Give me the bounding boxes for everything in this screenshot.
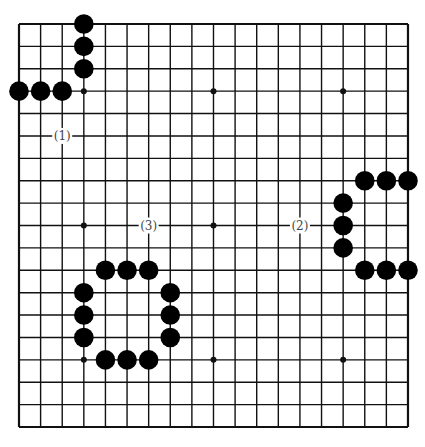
black-stone (74, 59, 94, 79)
black-stone (160, 305, 180, 325)
black-stone (74, 37, 94, 57)
group-label: (1) (54, 129, 71, 143)
black-stone (160, 328, 180, 348)
black-stone (355, 260, 375, 280)
black-stone (52, 81, 72, 101)
star-point (81, 88, 87, 94)
black-stone (117, 350, 137, 370)
black-stone (74, 14, 94, 34)
black-stone (117, 260, 137, 280)
black-stone (9, 81, 29, 101)
black-stone (355, 171, 375, 191)
black-stone (74, 283, 94, 303)
black-stone (31, 81, 51, 101)
black-stone (74, 328, 94, 348)
black-stone (96, 350, 116, 370)
star-point (81, 357, 87, 363)
star-point (81, 223, 87, 229)
group-label: (3) (140, 219, 157, 233)
black-stone (139, 260, 159, 280)
black-stone (398, 260, 418, 280)
black-stone (398, 171, 418, 191)
black-stone (333, 238, 353, 258)
star-point (340, 357, 346, 363)
black-stone (160, 283, 180, 303)
black-stone (333, 193, 353, 213)
star-point (210, 223, 216, 229)
black-stone (96, 260, 116, 280)
group-label: (2) (291, 219, 308, 233)
black-stone (377, 171, 397, 191)
black-stone (74, 305, 94, 325)
go-board-diagram: (1)(2)(3) (0, 0, 425, 447)
black-stone (377, 260, 397, 280)
black-stone (333, 216, 353, 236)
star-point (340, 88, 346, 94)
star-point (210, 357, 216, 363)
star-point (210, 88, 216, 94)
black-stone (139, 350, 159, 370)
